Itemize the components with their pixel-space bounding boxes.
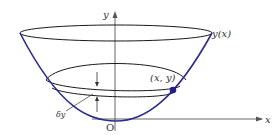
top-rim-ellipse	[20, 25, 212, 41]
y-axis-label: y	[102, 9, 109, 20]
y-axis	[113, 11, 118, 131]
paraboloid-diagram: y x y(x) (x, y) δy O	[0, 0, 279, 135]
slice-ellipse-lower	[52, 88, 174, 97]
x-axis-label: x	[265, 114, 271, 125]
delta-y-arrows	[95, 72, 99, 112]
origin-label: O	[106, 122, 114, 133]
delta-y-label: δy	[56, 110, 66, 119]
curve-label: y(x)	[211, 28, 231, 39]
point-marker	[170, 87, 177, 94]
point-label: (x, y)	[150, 72, 176, 83]
